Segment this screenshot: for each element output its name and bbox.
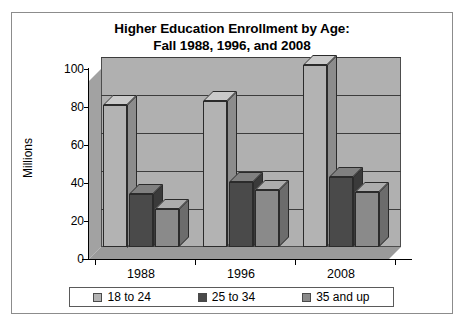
y-tick-label: 40 <box>50 177 84 189</box>
bar-front-face <box>329 177 353 247</box>
legend-item: 35 and up <box>302 290 369 304</box>
chart-frame: Higher Education Enrollment by Age: Fall… <box>11 12 453 314</box>
legend-item: 18 to 24 <box>93 290 150 304</box>
bar-front-face <box>255 190 279 247</box>
bar-1988-35-and-up <box>155 209 179 247</box>
legend-item: 25 to 34 <box>198 290 255 304</box>
bar-1988-25-to-34 <box>129 194 153 247</box>
bar-front-face <box>129 194 153 247</box>
plot-area <box>89 69 401 259</box>
y-tick-label: 80 <box>50 101 84 113</box>
bar-front-face <box>203 101 227 247</box>
x-tick-mark <box>95 259 96 265</box>
y-tick-label: 60 <box>50 139 84 151</box>
legend-swatch-icon <box>93 293 102 302</box>
bar-front-face <box>303 65 327 247</box>
x-tick-label: 1988 <box>101 267 181 281</box>
legend-label: 25 to 34 <box>212 290 255 304</box>
chart-legend: 18 to 2425 to 3435 and up <box>69 287 394 307</box>
bar-2008-18-to-24 <box>303 65 327 247</box>
bar-2008-25-to-34 <box>329 177 353 247</box>
bar-side-face <box>379 182 389 247</box>
legend-swatch-icon <box>302 293 311 302</box>
gridline <box>101 133 401 134</box>
y-tick-label: 100 <box>50 63 84 75</box>
bar-1996-25-to-34 <box>229 182 253 247</box>
bar-side-face <box>279 180 289 247</box>
y-tick-label: 20 <box>50 215 84 227</box>
legend-label: 35 and up <box>316 290 369 304</box>
plot-floor <box>89 247 401 259</box>
bar-front-face <box>229 182 253 247</box>
legend-label: 18 to 24 <box>107 290 150 304</box>
bar-front-face <box>103 105 127 248</box>
x-tick-mark <box>295 259 296 265</box>
plot-left-wall <box>89 69 101 259</box>
gridline <box>101 57 401 58</box>
legend-swatch-icon <box>198 293 207 302</box>
gridline <box>101 95 401 96</box>
bar-1996-18-to-24 <box>203 101 227 247</box>
bar-1988-18-to-24 <box>103 105 127 248</box>
bar-1996-35-and-up <box>255 190 279 247</box>
y-axis-ticks: 020406080100 <box>42 13 84 315</box>
x-tick-label: 1996 <box>201 267 281 281</box>
x-axis-line <box>82 259 412 260</box>
x-tick-label: 2008 <box>301 267 381 281</box>
x-tick-mark <box>395 259 396 265</box>
bar-front-face <box>155 209 179 247</box>
bar-2008-35-and-up <box>355 192 379 247</box>
x-tick-mark <box>195 259 196 265</box>
y-tick-label: 0 <box>50 253 84 265</box>
y-axis-title: Millions <box>21 108 35 208</box>
bar-front-face <box>355 192 379 247</box>
